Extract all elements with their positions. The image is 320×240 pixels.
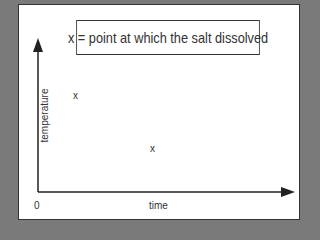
origin-label: 0 [34, 200, 40, 211]
x-axis-arrow-icon [281, 187, 295, 197]
data-point-2: x [150, 143, 155, 154]
data-point-1: x [73, 90, 78, 101]
y-axis-arrow-icon [33, 38, 43, 52]
y-axis-label: temperature [39, 86, 50, 146]
x-axis-label: time [149, 200, 168, 211]
